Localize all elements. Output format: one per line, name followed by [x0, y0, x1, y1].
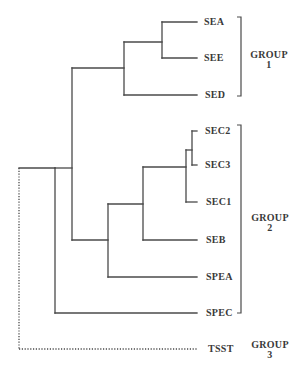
leaf-label-sea: SEA — [204, 17, 224, 27]
clade-group-2 — [72, 131, 197, 277]
leaf-label-sec3: SEC3 — [205, 160, 231, 170]
leaf-label-sec1: SEC1 — [206, 197, 232, 207]
group-2-number: 2 — [250, 223, 290, 233]
leaf-label-tsst: TSST — [208, 344, 234, 354]
leaf-label-see: SEE — [204, 53, 224, 63]
group-3-number: 3 — [250, 350, 290, 360]
leaf-label-sec2: SEC2 — [205, 126, 231, 136]
leaf-label-seb: SEB — [206, 235, 226, 245]
group-label-1: GROUP 1 — [249, 50, 289, 70]
group-label-2: GROUP 2 — [250, 213, 290, 233]
clade-group-1 — [72, 22, 197, 95]
leaf-label-spea: SPEA — [206, 272, 233, 282]
group-1-number: 1 — [249, 60, 289, 70]
bracket-group-1 — [237, 17, 241, 96]
leaf-label-spec: SPEC — [206, 308, 233, 318]
leaf-label-sed: SED — [205, 90, 225, 100]
bracket-group-2 — [237, 125, 241, 313]
group-label-3: GROUP 3 — [250, 340, 290, 360]
dendrogram: SEA SEE SED SEC2 SEC3 SEC1 SEB SPEA SPEC… — [0, 0, 302, 371]
